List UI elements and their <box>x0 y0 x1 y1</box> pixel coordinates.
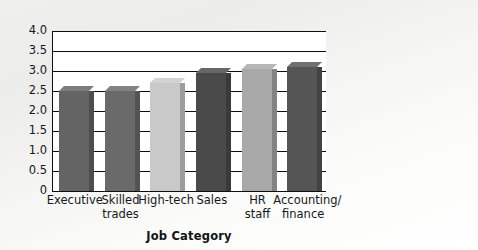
x-axis-category-label: Accounting/finance <box>273 194 333 221</box>
bar-top-face <box>196 68 231 73</box>
x-axis-title: Job Category <box>52 229 326 243</box>
bar-side-face <box>135 91 140 191</box>
plot-area: 4.03.53.02.52.01.51.00.50 <box>52 31 326 191</box>
y-axis-tick-label: 3.0 <box>29 65 47 77</box>
gridline <box>52 191 326 192</box>
y-axis-tick-label: 1.5 <box>29 125 47 137</box>
bar-top-face <box>287 62 322 67</box>
y-axis-tick-label: 1.0 <box>29 145 47 157</box>
x-axis-category-label-line: trades <box>91 208 151 222</box>
bar-top-face <box>105 86 140 91</box>
y-axis-tick-label: 2.5 <box>29 85 47 97</box>
x-axis-category-label-line: finance <box>273 208 333 222</box>
y-axis-tick-label: 3.5 <box>29 45 47 57</box>
bar-side-face <box>272 69 277 191</box>
bar <box>59 91 89 191</box>
bar-front-face <box>196 73 226 191</box>
bar <box>242 69 272 191</box>
bar <box>105 91 135 191</box>
x-axis-category-label-line: Accounting/ <box>273 194 333 208</box>
y-axis-tick-label: 2.0 <box>29 105 47 117</box>
bar <box>287 67 317 191</box>
x-axis-category-labels: ExecutiveSkilledtradesHigh-techSalesHRst… <box>52 194 332 232</box>
y-axis-tick-label: 4.0 <box>29 25 47 37</box>
bar-front-face <box>150 83 180 191</box>
bar-top-face <box>242 64 277 69</box>
chart-figure: 4.03.53.02.52.01.51.00.50 ExecutiveSkill… <box>0 0 478 250</box>
bar-side-face <box>317 67 322 191</box>
bar-front-face <box>105 91 135 191</box>
bar-front-face <box>287 67 317 191</box>
bar-front-face <box>59 91 89 191</box>
bar-side-face <box>180 83 185 191</box>
bar <box>196 73 226 191</box>
bar <box>150 83 180 191</box>
bar-front-face <box>242 69 272 191</box>
bar-top-face <box>59 86 94 91</box>
bar-side-face <box>89 91 94 191</box>
bar-side-face <box>226 73 231 191</box>
bar-top-face <box>150 78 185 83</box>
y-axis-tick-label: 0.5 <box>29 165 47 177</box>
bars-group <box>52 31 326 191</box>
